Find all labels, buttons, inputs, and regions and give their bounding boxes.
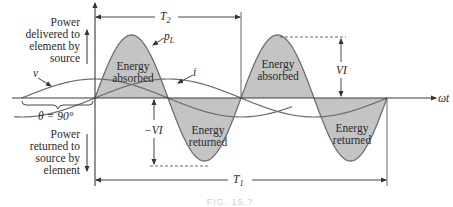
- energy-returned-label-2: Energy returned: [322, 122, 382, 146]
- power-delivered-line-3: element by: [6, 40, 80, 52]
- v-label: v: [33, 67, 38, 79]
- energy-absorbed-1-line-1: Energy: [103, 60, 163, 72]
- figure-canvas: Power delivered to element by source Pow…: [0, 0, 453, 207]
- power-returned-line-2: returned to: [6, 140, 80, 152]
- VI-label: VI: [336, 64, 347, 76]
- energy-returned-2-line-1: Energy: [322, 122, 382, 134]
- energy-returned-2-line-2: returned: [322, 134, 382, 146]
- figure-caption: FIG. 15.?: [180, 197, 280, 207]
- T2-label: T2: [160, 10, 170, 27]
- power-returned-line-4: element: [6, 164, 80, 176]
- energy-absorbed-label-1: Energy absorbed: [103, 60, 163, 84]
- pL-leader: [153, 38, 164, 45]
- energy-returned-1-line-2: returned: [178, 136, 238, 148]
- energy-returned-1-line-1: Energy: [178, 124, 238, 136]
- energy-absorbed-1-line-2: absorbed: [103, 72, 163, 84]
- pL-subscript: L: [170, 36, 174, 45]
- neg-VI-label: −VI: [144, 124, 163, 136]
- theta-brace: [22, 101, 93, 109]
- power-returned-line-3: source by: [6, 152, 80, 164]
- power-returned-label: Power returned to source by element: [6, 128, 80, 176]
- T1-subscript: 1: [239, 179, 243, 188]
- energy-absorbed-2-line-2: absorbed: [248, 70, 308, 82]
- T1-label: T1: [233, 173, 243, 190]
- energy-absorbed-2-line-1: Energy: [248, 58, 308, 70]
- theta-label: θ = 90°: [38, 110, 73, 122]
- wt-axis-label: ωt: [438, 92, 449, 104]
- i-label: i: [193, 66, 196, 78]
- T2-subscript: 2: [166, 16, 170, 25]
- energy-absorbed-label-2: Energy absorbed: [248, 58, 308, 82]
- power-delivered-line-2: delivered to: [6, 28, 80, 40]
- power-delivered-label: Power delivered to element by source: [6, 16, 80, 64]
- pL-label: pL: [164, 30, 174, 47]
- power-delivered-line-1: Power: [6, 16, 80, 28]
- energy-returned-label-1: Energy returned: [178, 124, 238, 148]
- power-delivered-line-4: source: [6, 52, 80, 64]
- v-leader: [38, 78, 51, 86]
- power-returned-line-1: Power: [6, 128, 80, 140]
